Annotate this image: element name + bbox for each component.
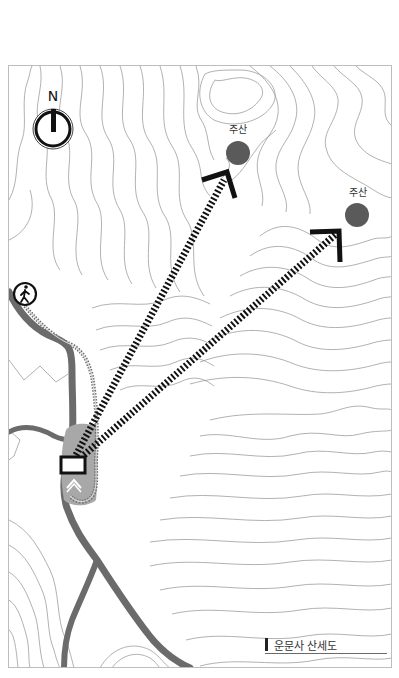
- north-label: N: [48, 88, 58, 104]
- peak-marker-2: [345, 203, 369, 227]
- hiker-icon: [14, 283, 36, 305]
- peak-marker-1: [226, 141, 250, 165]
- peak-label-1: 주산: [229, 121, 248, 136]
- temple-marker-icon: [61, 457, 85, 473]
- title-bar-icon: [265, 638, 268, 651]
- river: [9, 292, 190, 668]
- north-compass-icon: [33, 109, 73, 149]
- contour-lines: [9, 66, 392, 668]
- peak-label-2: 주산: [349, 184, 368, 199]
- map-title-text: 운문사 산세도: [274, 637, 338, 653]
- direction-arrows: [76, 172, 340, 455]
- topographic-map: [0, 0, 399, 678]
- map-title: 운문사 산세도: [265, 637, 387, 654]
